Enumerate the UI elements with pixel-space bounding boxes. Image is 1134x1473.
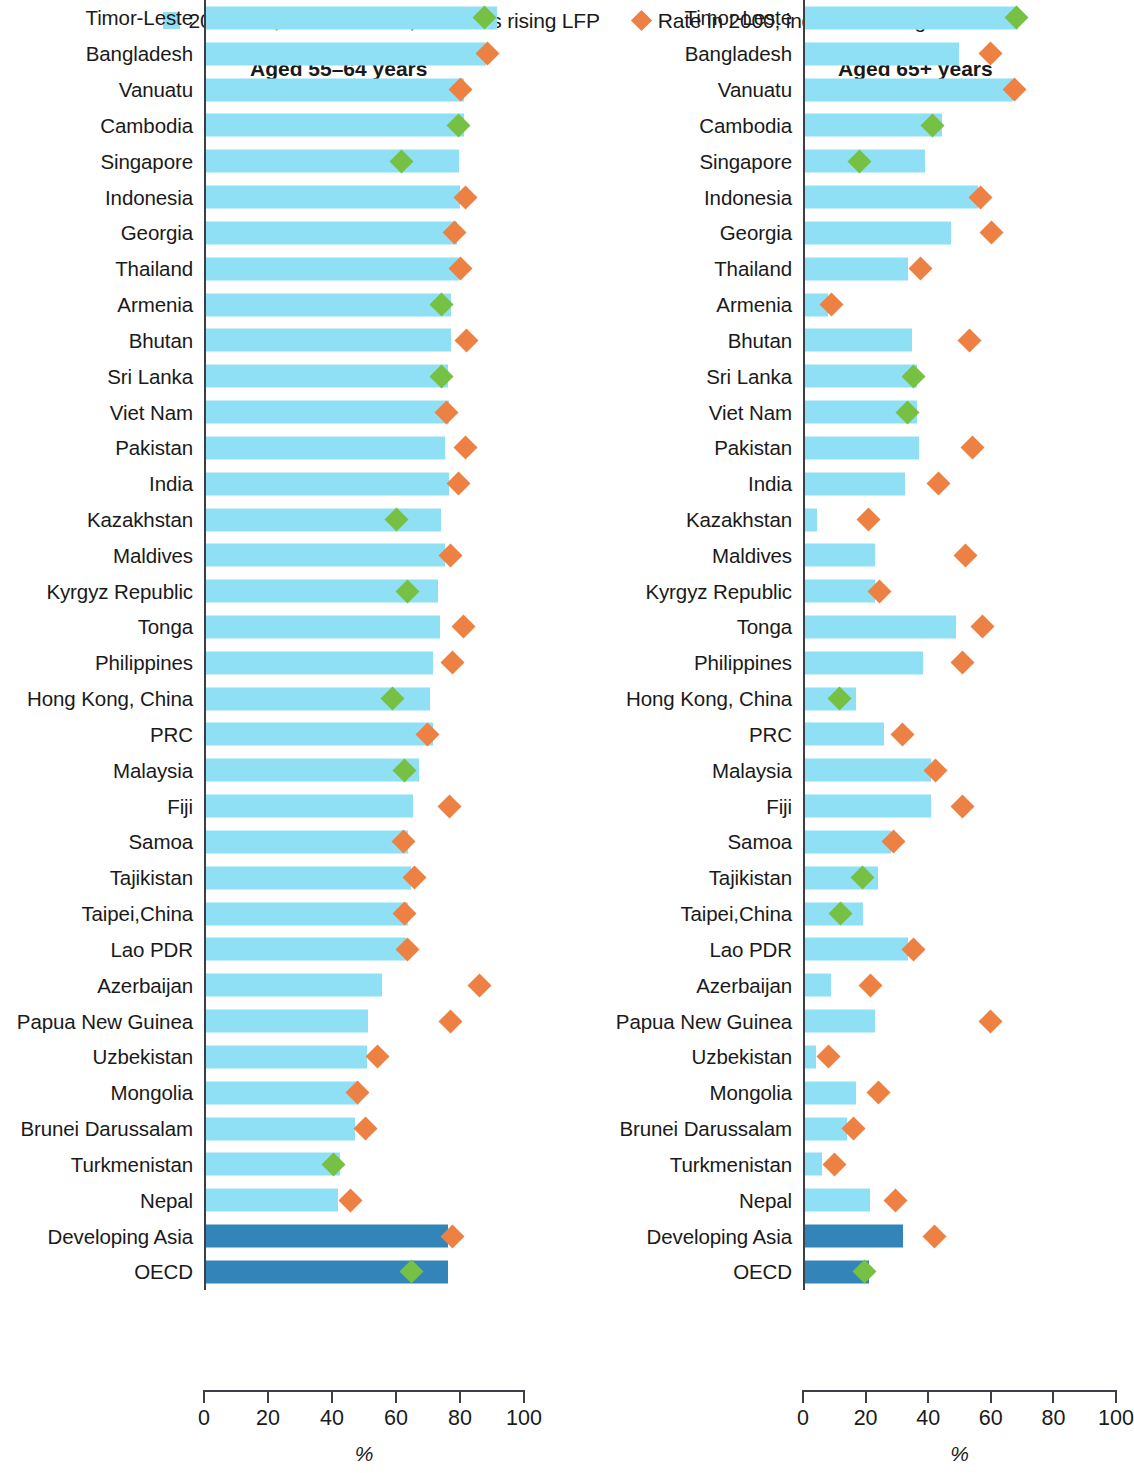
marker-2000-falling (978, 1009, 1002, 1033)
marker-2000-falling (866, 1081, 890, 1105)
category-label: Samoa (0, 824, 204, 860)
category-label: Azerbaijan (0, 967, 204, 1003)
bar-2021 (805, 615, 956, 638)
bar-2021 (805, 1081, 856, 1104)
marker-2000-falling (950, 794, 974, 818)
category-label: Armenia (0, 287, 204, 323)
bar-2021 (805, 830, 891, 853)
chart-row (805, 1111, 1116, 1147)
bar-2021 (805, 6, 1018, 29)
category-label: PRC (0, 717, 204, 753)
category-label: PRC (230, 717, 803, 753)
category-label: Bhutan (230, 322, 803, 358)
category-label: Samoa (230, 824, 803, 860)
category-label: Developing Asia (230, 1218, 803, 1254)
chart-row (805, 36, 1116, 72)
axis-tick (203, 1390, 205, 1403)
category-label: Mongolia (0, 1075, 204, 1111)
axis-tick (927, 1390, 929, 1403)
category-label: Taipei,China (230, 896, 803, 932)
bar-2021 (805, 186, 978, 209)
chart-row (805, 1075, 1116, 1111)
chart-row (805, 967, 1116, 1003)
category-label: Tajikistan (230, 860, 803, 896)
chart-row (805, 251, 1116, 287)
axis-tick-label: 80 (448, 1407, 472, 1429)
bar-2021 (805, 974, 831, 997)
chart-row (805, 72, 1116, 108)
category-label: Brunei Darussalam (230, 1111, 803, 1147)
chart-row (805, 1182, 1116, 1218)
category-label: Lao PDR (0, 932, 204, 968)
category-label: Georgia (230, 215, 803, 251)
marker-2000-falling (816, 1045, 840, 1069)
marker-2000-falling (891, 722, 915, 746)
category-label: Kazakhstan (0, 502, 204, 538)
axis-tick-label: 40 (916, 1407, 940, 1429)
chart-row (805, 1039, 1116, 1075)
marker-2000-falling (823, 1152, 847, 1176)
marker-2000-falling (922, 1224, 946, 1248)
marker-2000-falling (950, 651, 974, 675)
category-label: Bangladesh (0, 36, 204, 72)
chart-row (805, 788, 1116, 824)
axis-unit-label: % (355, 1442, 374, 1466)
category-label: Malaysia (0, 752, 204, 788)
bar-rows-right (805, 0, 1116, 1290)
bar-2021 (805, 580, 875, 603)
category-label: Viet Nam (0, 394, 204, 430)
category-label: Singapore (0, 143, 204, 179)
category-label: Azerbaijan (230, 967, 803, 1003)
bar-2021 (805, 365, 917, 388)
axis-tick (395, 1390, 397, 1403)
category-label: Fiji (230, 788, 803, 824)
category-label: Mongolia (230, 1075, 803, 1111)
axis-tick-label: 60 (979, 1407, 1003, 1429)
bar-2021 (805, 651, 923, 674)
bar-2021 (805, 1153, 822, 1176)
axis-tick (331, 1390, 333, 1403)
axis-tick (523, 1390, 525, 1403)
axis-tick (1052, 1390, 1054, 1403)
category-label: Brunei Darussalam (0, 1111, 204, 1147)
chart-row (805, 537, 1116, 573)
chart-row (805, 179, 1116, 215)
axis-tick-label: 100 (1098, 1407, 1134, 1429)
chart-row (805, 358, 1116, 394)
category-labels-left: Timor-LesteBangladeshVanuatuCambodiaSing… (0, 0, 204, 1290)
category-label: Papua New Guinea (0, 1003, 204, 1039)
marker-2000-falling (857, 507, 881, 531)
category-label: Timor-Leste (0, 0, 204, 36)
category-label: Fiji (0, 788, 204, 824)
category-label: OECD (0, 1254, 204, 1290)
category-label: Tonga (0, 609, 204, 645)
axis-tick (865, 1390, 867, 1403)
axis-unit-label: % (950, 1442, 969, 1466)
category-label: Timor-Leste (230, 0, 803, 36)
bar-2021 (805, 508, 817, 531)
category-label: Sri Lanka (0, 358, 204, 394)
category-label: Turkmenistan (230, 1147, 803, 1183)
bar-2021 (805, 472, 905, 495)
chart-row (805, 1003, 1116, 1039)
chart-row (805, 752, 1116, 788)
category-label: Uzbekistan (230, 1039, 803, 1075)
category-label: Hong Kong, China (0, 681, 204, 717)
marker-2000-falling (908, 257, 932, 281)
axis-tick (802, 1390, 804, 1403)
plot-area-right (803, 0, 1116, 1290)
marker-2000-falling (978, 42, 1002, 66)
axis-line (803, 1390, 1116, 1392)
category-label: Maldives (0, 537, 204, 573)
chart-row (805, 896, 1116, 932)
axis-tick-label: 100 (506, 1407, 542, 1429)
category-label: Armenia (230, 287, 803, 323)
bar-2021 (805, 257, 908, 280)
chart-row (805, 502, 1116, 538)
category-label: Malaysia (230, 752, 803, 788)
category-label: Philippines (0, 645, 204, 681)
bar-2021 (805, 544, 875, 567)
chart-row (805, 1218, 1116, 1254)
chart-row (805, 860, 1116, 896)
marker-2000-falling (961, 436, 985, 460)
